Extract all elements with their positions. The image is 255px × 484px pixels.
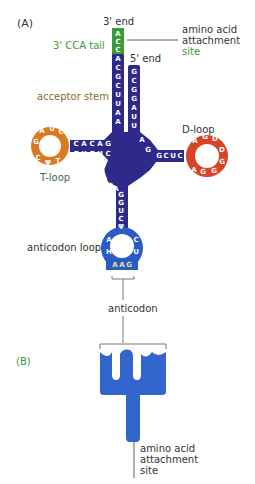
svg-text:C: C [133,236,138,244]
svg-text:A: A [119,261,125,269]
svg-text:C: C [163,152,168,160]
acceptor-pair-ticks [124,72,128,126]
svg-text:G: G [131,86,137,94]
svg-text:C: C [35,154,40,162]
svg-text:A: A [115,118,121,126]
trna-schematic-shape [100,350,166,443]
svg-text:G: G [105,140,111,148]
svg-text:C: C [101,158,106,166]
svg-text:C: C [115,38,120,46]
svg-text:U: U [81,150,87,158]
anticodon-bracket [112,276,134,279]
svg-text:U: U [97,150,103,158]
svg-text:G: G [118,199,124,207]
svg-text:U: U [49,125,55,133]
svg-text:A: A [112,261,118,269]
svg-text:G: G [177,162,183,170]
svg-text:G: G [163,162,169,170]
svg-text:G: G [89,150,95,158]
svg-text:A: A [81,140,87,148]
svg-text:A: A [115,109,121,117]
svg-text:U: U [99,168,105,176]
svg-text:U: U [131,122,137,130]
svg-text:C: C [73,140,78,148]
svg-text:C: C [131,77,136,85]
svg-text:A: A [115,55,121,63]
panel-b-bracket [100,344,166,349]
svg-text:G: G [131,215,137,223]
svg-text:A: A [131,223,137,231]
svg-text:G: G [219,158,225,166]
svg-text:G: G [200,168,206,176]
svg-text:A: A [139,136,145,144]
svg-text:A: A [191,166,197,174]
svg-text:G: G [202,133,208,141]
svg-text:C: C [118,215,123,223]
svg-text:G: G [131,95,137,103]
svg-text:U: U [118,207,124,215]
svg-text:D: D [212,135,218,143]
svg-text:C: C [131,191,136,199]
svg-text:C: C [89,140,94,148]
svg-text:A: A [106,236,112,244]
svg-text:A: A [131,207,137,215]
anticodon-loop-hole [110,234,134,258]
svg-text:T: T [56,157,61,165]
t-loop-hole [39,135,61,157]
svg-text:G: G [211,167,217,175]
svg-text:C: C [115,64,120,72]
trna-diagram: A C C A C G C U U A A G C G G A U U CACA… [0,0,255,484]
svg-text:H: H [106,248,112,256]
svg-text:G: G [115,73,121,81]
svg-text:C: C [131,199,136,207]
svg-text:C: C [58,128,63,136]
svg-text:U: U [115,100,121,108]
svg-text:D: D [219,146,225,154]
svg-text:A: A [39,127,45,135]
svg-text:Ψ: Ψ [45,159,51,167]
svg-text:C: C [156,162,161,170]
svg-text:G: G [131,183,137,191]
svg-text:U: U [170,152,176,160]
trna-body [70,132,184,234]
svg-text:G: G [73,150,79,158]
svg-text:A: A [170,162,176,170]
svg-text:U: U [115,91,121,99]
svg-text:G: G [33,138,39,146]
svg-text:A: A [97,140,103,148]
svg-text:A: A [131,104,137,112]
svg-text:C: C [105,150,110,158]
svg-text:C: C [115,46,120,54]
svg-text:U: U [131,113,137,121]
svg-text:C: C [177,152,182,160]
svg-text:G: G [145,146,151,154]
svg-text:C: C [115,82,120,90]
svg-text:G: G [126,261,132,269]
d-loop-hole [195,144,219,168]
svg-text:A: A [192,137,198,145]
svg-text:G: G [131,68,137,76]
svg-text:A: A [115,30,121,38]
svg-text:G: G [107,182,113,190]
svg-text:G: G [118,191,124,199]
svg-text:G: G [156,152,162,160]
svg-text:Ψ: Ψ [118,223,124,231]
svg-text:U: U [133,248,139,256]
